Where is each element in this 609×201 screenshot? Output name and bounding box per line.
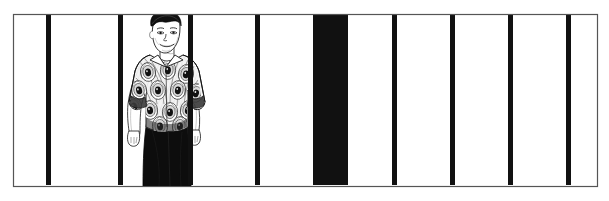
bar-1	[46, 15, 51, 185]
bar-6	[392, 15, 397, 185]
bar-2	[118, 15, 123, 185]
paper-background	[0, 0, 609, 201]
bar-4	[255, 15, 260, 185]
bar-7	[450, 15, 455, 185]
bar-9	[566, 15, 571, 185]
bar-8	[508, 15, 513, 185]
bar-3	[188, 15, 193, 185]
comic-panel: Black and white comic panel: a smiling y…	[0, 0, 609, 201]
bar-5-wide-black-column	[313, 15, 348, 185]
illustration-artboard	[0, 0, 609, 201]
illustration-svg	[0, 0, 609, 201]
